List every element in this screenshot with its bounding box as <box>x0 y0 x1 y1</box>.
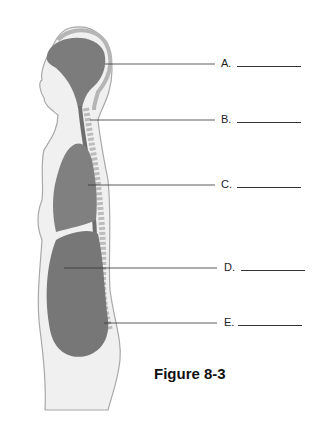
answer-blank-c[interactable] <box>237 187 301 188</box>
label-a: A. <box>221 57 231 69</box>
label-b: B. <box>221 113 231 125</box>
answer-blank-e[interactable] <box>238 325 302 326</box>
label-e: E. <box>224 316 234 328</box>
abdominopelvic-cavity <box>47 231 109 357</box>
answer-blank-d[interactable] <box>241 270 305 271</box>
answer-blank-a[interactable] <box>237 66 301 67</box>
label-d: D. <box>224 261 235 273</box>
label-c: C. <box>221 178 232 190</box>
figure-caption: Figure 8-3 <box>154 365 226 382</box>
answer-blank-b[interactable] <box>237 122 301 123</box>
